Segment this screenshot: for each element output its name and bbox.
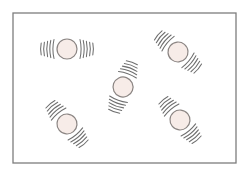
vibration-arc xyxy=(41,43,42,55)
vibration-arc xyxy=(93,43,94,55)
particle-circle xyxy=(57,39,77,59)
particle-vibration-diagram xyxy=(0,0,240,174)
